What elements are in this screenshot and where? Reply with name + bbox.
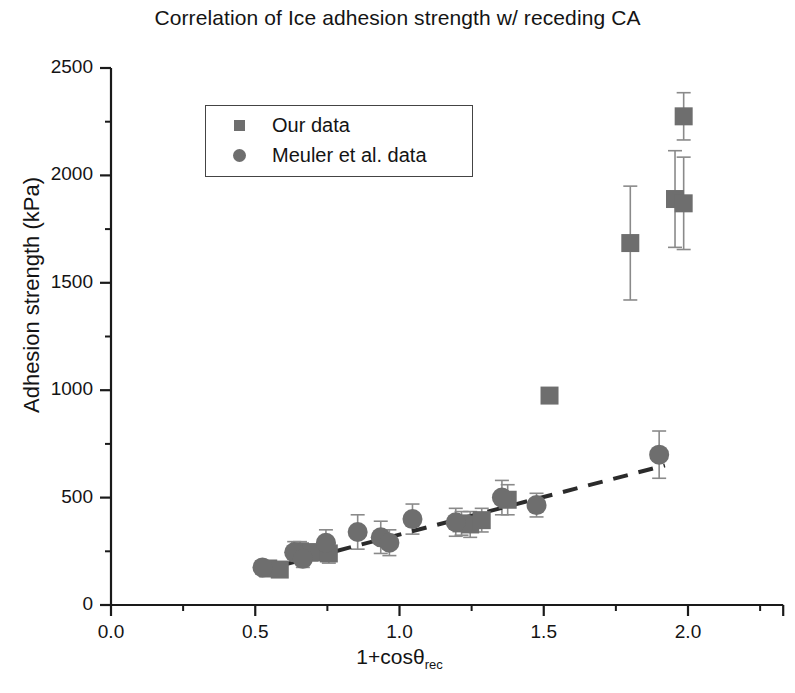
- legend-label-meuler-data: Meuler et al. data: [272, 144, 427, 167]
- x-tick-label: 1.5: [509, 621, 579, 643]
- x-tick-label: 0.0: [76, 621, 146, 643]
- data-point-circle: [252, 557, 272, 577]
- x-tick-label: 1.0: [365, 621, 435, 643]
- data-point-circle: [348, 522, 368, 542]
- data-point-circle: [446, 512, 466, 532]
- y-tick-label: 2000: [23, 163, 93, 185]
- data-point-square: [675, 194, 693, 212]
- legend-label-our-data: Our data: [272, 114, 350, 137]
- data-point-circle: [293, 549, 313, 569]
- legend-marker-circle-icon: [206, 149, 272, 162]
- y-tick-label: 2500: [23, 56, 93, 78]
- legend-item-our-data: Our data: [206, 110, 472, 140]
- chart-legend: Our data Meuler et al. data: [205, 105, 473, 177]
- data-markers: [252, 107, 692, 578]
- y-tick-label: 500: [23, 486, 93, 508]
- x-tick-label: 0.5: [220, 621, 290, 643]
- plot-area: [0, 0, 795, 693]
- data-point-circle: [379, 533, 399, 553]
- y-tick-label: 1500: [23, 271, 93, 293]
- data-point-square: [473, 511, 491, 529]
- y-tick-label: 1000: [23, 378, 93, 400]
- data-point-square: [541, 387, 559, 405]
- data-point-square: [621, 234, 639, 252]
- data-point-square: [271, 561, 289, 579]
- data-point-square: [675, 107, 693, 125]
- legend-marker-square-icon: [206, 120, 272, 131]
- data-point-circle: [649, 445, 669, 465]
- data-point-circle: [402, 509, 422, 529]
- data-point-circle: [527, 495, 547, 515]
- x-tick-label: 2.0: [653, 621, 723, 643]
- y-tick-label: 0: [23, 593, 93, 615]
- data-point-circle: [492, 488, 512, 508]
- data-point-circle: [316, 533, 336, 553]
- chart-figure: Correlation of Ice adhesion strength w/ …: [0, 0, 795, 693]
- legend-item-meuler-data: Meuler et al. data: [206, 140, 472, 170]
